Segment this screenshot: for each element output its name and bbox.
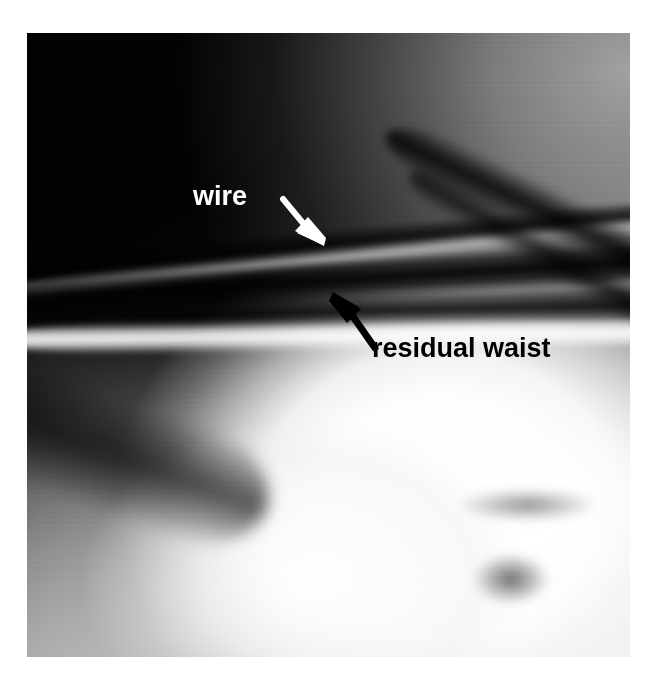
- xray-image: wire residual waist: [27, 33, 630, 657]
- page-root: wire residual waist: [0, 0, 652, 683]
- film-grain-layer-secondary: [27, 33, 630, 657]
